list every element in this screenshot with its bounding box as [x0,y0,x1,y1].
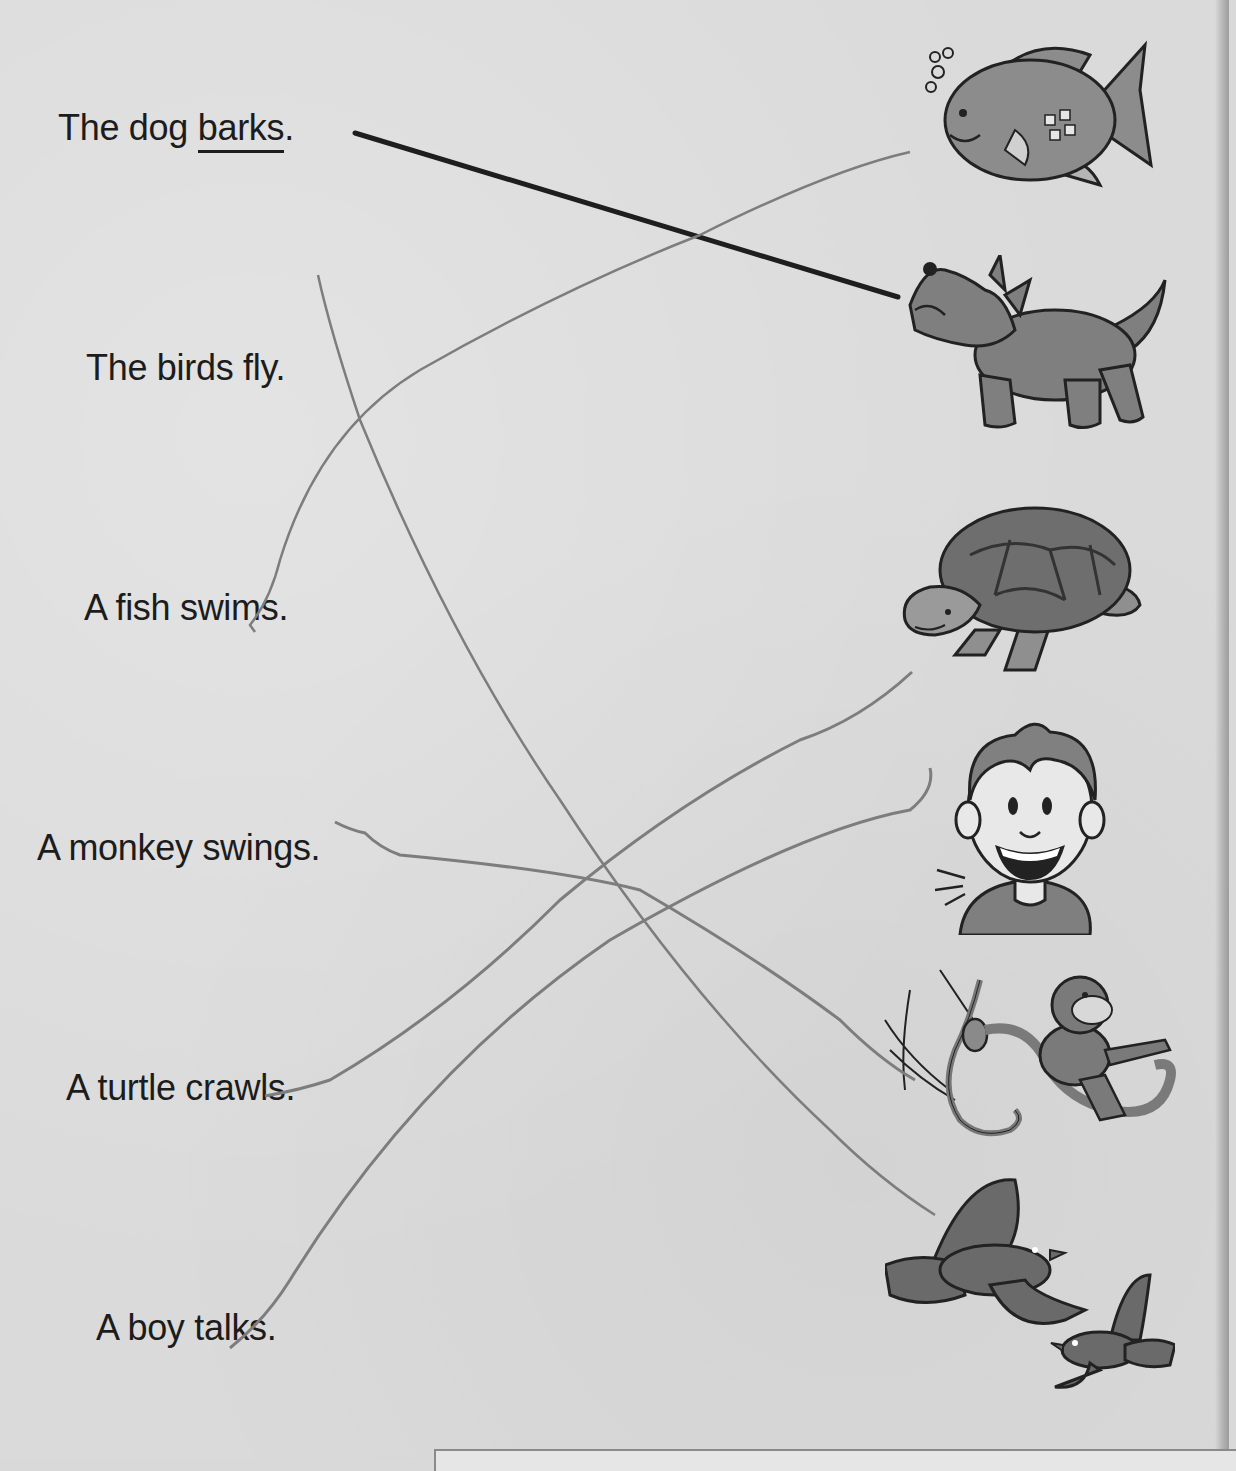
pencil-line-boy-talks[interactable] [230,768,931,1348]
page-edge-shadow [1215,0,1229,1460]
pencil-line-monkey[interactable] [335,822,915,1080]
pencil-line-birds[interactable] [318,275,935,1215]
bottom-page-edge [434,1449,1236,1471]
example-match-line-dog [355,133,898,297]
pencil-line-fish[interactable] [250,152,910,632]
pencil-line-turtle-crawls[interactable] [265,672,912,1096]
